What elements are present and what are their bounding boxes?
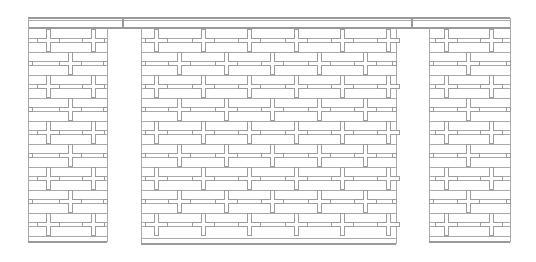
edge-notch xyxy=(506,199,510,203)
cross-ornament xyxy=(145,29,167,51)
cross-ornament xyxy=(435,213,457,235)
edge-notch xyxy=(392,107,396,111)
cross-ornament xyxy=(37,167,59,189)
cross-ornament xyxy=(331,75,353,97)
wall-elevation-drawing xyxy=(0,0,536,262)
cross-ornament xyxy=(238,29,260,51)
cross-ornament xyxy=(308,52,330,74)
cross-ornament xyxy=(331,121,353,143)
cross-ornament xyxy=(261,98,283,120)
cross-ornament xyxy=(59,190,81,212)
cross-ornament xyxy=(37,29,59,51)
cross-ornament xyxy=(215,144,237,166)
cross-ornament xyxy=(331,213,353,235)
cross-ornament xyxy=(192,121,214,143)
cross-ornament xyxy=(480,75,502,97)
edge-notch xyxy=(141,61,145,65)
cross-ornament xyxy=(457,52,479,74)
cross-ornament xyxy=(215,98,237,120)
edge-notch xyxy=(103,61,107,65)
cross-ornament xyxy=(261,144,283,166)
cross-ornament xyxy=(168,52,190,74)
cross-ornament xyxy=(261,190,283,212)
edge-notch xyxy=(392,153,396,157)
cross-ornament xyxy=(308,190,330,212)
cross-ornament xyxy=(145,213,167,235)
cross-ornament xyxy=(168,190,190,212)
cross-ornament xyxy=(308,144,330,166)
edge-notch xyxy=(103,199,107,203)
edge-notch xyxy=(392,199,396,203)
cross-ornament xyxy=(331,167,353,189)
cross-ornament xyxy=(480,29,502,51)
cross-ornament xyxy=(435,167,457,189)
edge-notch xyxy=(506,61,510,65)
cross-ornament xyxy=(37,213,59,235)
edge-notch xyxy=(506,153,510,157)
cross-ornament xyxy=(59,144,81,166)
cross-ornament xyxy=(354,52,376,74)
cross-ornament xyxy=(192,167,214,189)
cross-ornament xyxy=(192,29,214,51)
cross-ornament xyxy=(435,121,457,143)
cross-ornament xyxy=(82,121,104,143)
cross-ornament xyxy=(331,29,353,51)
edge-notch xyxy=(28,199,32,203)
cross-ornament xyxy=(354,98,376,120)
edge-notch xyxy=(28,107,32,111)
edge-notch xyxy=(506,107,510,111)
cross-ornament xyxy=(59,52,81,74)
cross-ornament xyxy=(285,121,307,143)
cross-ornament xyxy=(215,52,237,74)
cross-ornament xyxy=(308,98,330,120)
cross-ornament xyxy=(59,98,81,120)
cross-ornament xyxy=(480,213,502,235)
cross-ornament xyxy=(285,75,307,97)
cross-ornament xyxy=(82,75,104,97)
cross-ornament xyxy=(238,167,260,189)
cross-ornament xyxy=(354,144,376,166)
cross-ornament xyxy=(168,144,190,166)
cross-ornament xyxy=(435,75,457,97)
cross-ornament xyxy=(192,213,214,235)
cross-ornament xyxy=(480,167,502,189)
cross-ornament xyxy=(145,167,167,189)
cross-ornament xyxy=(192,75,214,97)
cross-ornament xyxy=(37,75,59,97)
edge-notch xyxy=(429,153,433,157)
cross-ornament xyxy=(215,190,237,212)
edge-notch xyxy=(429,107,433,111)
cross-ornament xyxy=(261,52,283,74)
cross-ornament xyxy=(285,29,307,51)
edge-notch xyxy=(28,61,32,65)
cross-ornament xyxy=(37,121,59,143)
cross-ornament xyxy=(285,213,307,235)
cross-ornament xyxy=(480,121,502,143)
cross-ornament xyxy=(435,29,457,51)
edge-notch xyxy=(141,199,145,203)
edge-notch xyxy=(429,61,433,65)
cross-ornament xyxy=(238,75,260,97)
cross-ornament xyxy=(145,121,167,143)
cross-ornament xyxy=(457,190,479,212)
cross-ornament xyxy=(145,75,167,97)
elevation-canvas xyxy=(0,0,536,262)
cross-ornament xyxy=(457,144,479,166)
cross-ornament xyxy=(82,213,104,235)
cross-ornament xyxy=(82,29,104,51)
cross-ornament xyxy=(238,121,260,143)
edge-notch xyxy=(103,153,107,157)
edge-notch xyxy=(392,61,396,65)
cross-ornament xyxy=(457,98,479,120)
cross-ornament xyxy=(354,190,376,212)
edge-notch xyxy=(141,153,145,157)
edge-notch xyxy=(103,107,107,111)
cross-ornament xyxy=(168,98,190,120)
edge-notch xyxy=(28,153,32,157)
cross-ornament xyxy=(238,213,260,235)
edge-notch xyxy=(141,107,145,111)
cross-ornament xyxy=(285,167,307,189)
edge-notch xyxy=(429,199,433,203)
cross-ornament xyxy=(82,167,104,189)
